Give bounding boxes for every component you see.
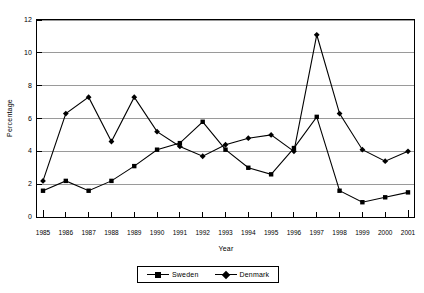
plot-area: [36, 19, 415, 218]
data-point-square: [200, 120, 204, 124]
data-point-square: [269, 172, 273, 176]
y-tick-label: 0: [6, 213, 32, 220]
series-line: [43, 117, 408, 202]
series-line: [43, 35, 408, 181]
chart-container: Percentage 121086420 1985198619871988198…: [0, 0, 424, 293]
series-denmark: [40, 32, 411, 184]
y-tick-label: 6: [6, 115, 32, 122]
data-point-square: [383, 195, 387, 199]
legend-marker-glyph: [155, 272, 161, 278]
x-axis-title: Year: [36, 245, 416, 252]
x-tick-label: 2001: [393, 228, 423, 237]
data-point-square: [41, 189, 45, 193]
data-point-square: [132, 164, 136, 168]
data-point-square: [155, 147, 159, 151]
data-point-diamond: [154, 129, 160, 135]
data-point-diamond: [314, 32, 320, 38]
legend-marker-glyph: [221, 270, 229, 278]
legend-item-denmark: Denmark: [215, 270, 270, 279]
data-point-square: [109, 179, 113, 183]
y-tick-label: 2: [6, 180, 32, 187]
chart-legend: SwedenDenmark: [137, 266, 279, 283]
data-point-diamond: [382, 158, 388, 164]
y-tick-label: 4: [6, 147, 32, 154]
legend-marker-square-icon: [147, 270, 169, 279]
x-axis-tick-labels: 1985198619871988198919901991199219931994…: [0, 228, 424, 240]
data-point-square: [246, 166, 250, 170]
data-point-diamond: [200, 153, 206, 159]
legend-label: Sweden: [172, 271, 199, 278]
data-point-diamond: [337, 111, 343, 117]
data-point-square: [337, 189, 341, 193]
legend-item-sweden: Sweden: [147, 270, 199, 279]
data-point-diamond: [131, 94, 137, 100]
y-tick-label: 12: [6, 16, 32, 23]
legend-label: Denmark: [240, 271, 270, 278]
y-tick-label: 10: [6, 49, 32, 56]
y-axis-tick-labels: 121086420: [2, 0, 32, 293]
y-tick-label: 8: [6, 82, 32, 89]
data-point-diamond: [405, 148, 411, 154]
data-point-square: [315, 115, 319, 119]
data-point-square: [64, 179, 68, 183]
data-point-square: [406, 190, 410, 194]
data-point-diamond: [245, 135, 251, 141]
data-point-square: [360, 200, 364, 204]
data-point-square: [86, 189, 90, 193]
series-sweden: [41, 115, 410, 205]
plot-svg: [37, 20, 414, 217]
data-point-diamond: [40, 178, 46, 184]
data-point-square: [223, 147, 227, 151]
legend-marker-diamond-icon: [215, 270, 237, 279]
data-point-diamond: [109, 139, 115, 145]
